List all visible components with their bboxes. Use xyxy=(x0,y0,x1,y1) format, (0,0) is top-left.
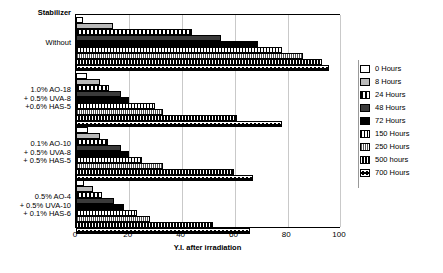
gridline xyxy=(340,15,341,227)
legend-swatch xyxy=(360,143,370,151)
bar-group xyxy=(76,73,340,127)
legend-item: 150 Hours xyxy=(360,127,443,140)
legend-item: 0 Hours xyxy=(360,62,443,75)
legend-label: 48 Hours xyxy=(375,103,405,112)
legend-label: 250 Hours xyxy=(375,142,410,151)
x-axis-tick-label: 60 xyxy=(229,230,238,239)
legend-label: 24 Hours xyxy=(375,90,405,99)
x-axis-tick-label: 0 xyxy=(73,230,77,239)
legend-label: 150 Hours xyxy=(375,129,410,138)
x-axis-tick-label: 40 xyxy=(176,230,185,239)
legend-divider xyxy=(358,60,359,188)
legend: 0 Hours8 Hours24 Hours48 Hours72 Hours15… xyxy=(360,62,443,179)
legend-swatch xyxy=(360,169,370,177)
legend-swatch xyxy=(360,91,370,99)
legend-swatch xyxy=(360,104,370,112)
legend-item: 8 Hours xyxy=(360,75,443,88)
x-axis-tick-label: 100 xyxy=(332,230,345,239)
bar-group xyxy=(76,127,340,181)
legend-item: 72 Hours xyxy=(360,114,443,127)
legend-label: 0 Hours xyxy=(375,64,401,73)
bar-group xyxy=(76,180,340,234)
legend-swatch xyxy=(360,78,370,86)
bar xyxy=(76,65,329,71)
legend-label: 8 Hours xyxy=(375,77,401,86)
legend-swatch xyxy=(360,65,370,73)
x-axis-ticks: 020406080100 xyxy=(75,230,340,242)
legend-item: 48 Hours xyxy=(360,101,443,114)
y-axis-label-column: Without1.0% AO-18 + 0.5% UVA-8 +0.6% HAS… xyxy=(0,0,71,240)
y-axis-label: Without xyxy=(4,39,71,48)
x-axis-tick-label: 80 xyxy=(282,230,291,239)
legend-item: 500 hours xyxy=(360,153,443,166)
y-axis-label: 0.5% AO-4 + 0.5% UVA-10 + 0.1% HAS-6 xyxy=(4,193,71,219)
legend-label: 700 Hours xyxy=(375,168,410,177)
bar-group xyxy=(76,17,340,71)
bar-chart: Stabilizer Without1.0% AO-18 + 0.5% UVA-… xyxy=(0,0,443,273)
y-axis-label: 1.0% AO-18 + 0.5% UVA-8 +0.6% HAS-5 xyxy=(4,86,71,112)
bar-fill xyxy=(76,65,329,71)
legend-swatch xyxy=(360,130,370,138)
legend-label: 500 hours xyxy=(375,155,408,164)
legend-item: 700 Hours xyxy=(360,166,443,179)
legend-label: 72 Hours xyxy=(375,116,405,125)
legend-swatch xyxy=(360,117,370,125)
plot-area xyxy=(75,14,340,228)
x-axis-tick-label: 20 xyxy=(123,230,132,239)
legend-item: 24 Hours xyxy=(360,88,443,101)
y-axis-label: 0.1% AO-10 + 0.5% UVA-8 + 0.5% HAS-5 xyxy=(4,140,71,166)
x-axis-title: Y.I. after irradiation xyxy=(75,243,340,252)
legend-swatch xyxy=(360,156,370,164)
legend-item: 250 Hours xyxy=(360,140,443,153)
